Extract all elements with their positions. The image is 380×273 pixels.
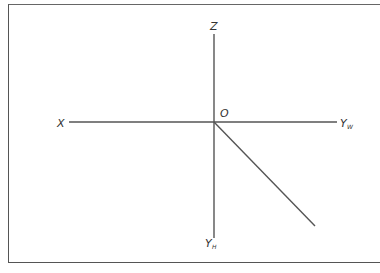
z-axis-label: Z bbox=[209, 20, 218, 33]
yh-sub: H bbox=[212, 243, 217, 250]
yh-axis-label: Y H bbox=[205, 237, 217, 250]
diagonal-line bbox=[214, 122, 315, 226]
yw-sub: W bbox=[347, 123, 354, 130]
x-axis-label: X bbox=[56, 117, 65, 130]
yw-axis-label: Y W bbox=[340, 117, 354, 130]
origin-label: O bbox=[220, 107, 229, 120]
